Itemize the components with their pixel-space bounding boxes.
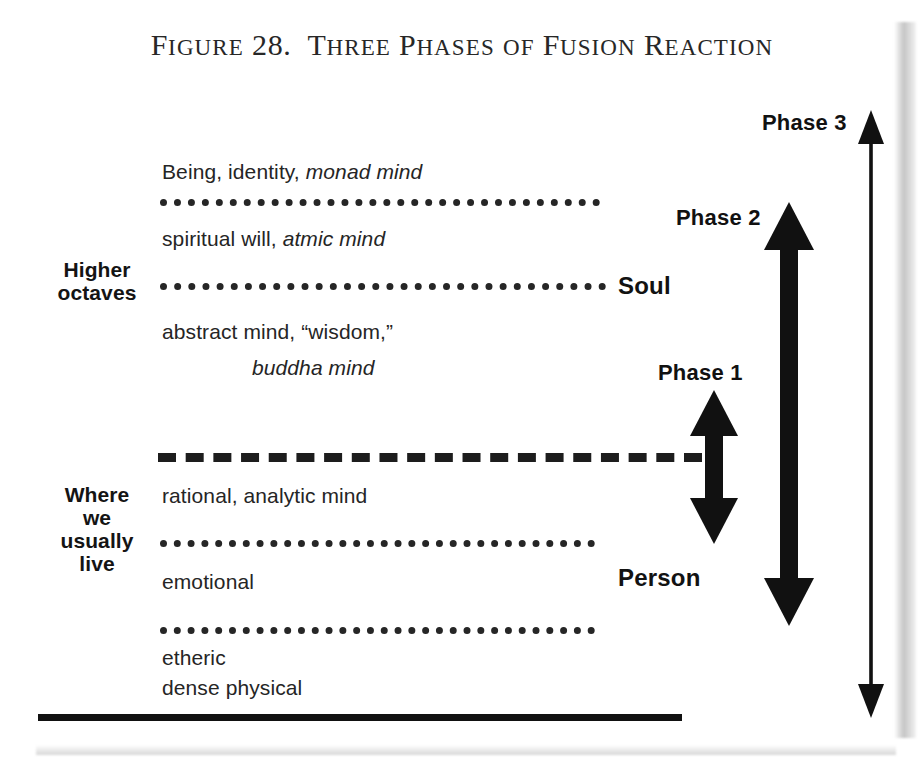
phase-label-2: Phase 2 bbox=[676, 205, 761, 231]
side-label-soul: Soul bbox=[618, 272, 671, 300]
group-label-higher-line1: Higher bbox=[38, 258, 156, 281]
group-label-lower-line1: Where bbox=[38, 483, 156, 506]
group-label-lower-line3: usually bbox=[38, 529, 156, 552]
group-label-lower-line4: live bbox=[38, 552, 156, 575]
group-label-lower-line2: we bbox=[38, 506, 156, 529]
band-text-etheric: etheric bbox=[162, 646, 226, 670]
band-text-rational: rational, analytic mind bbox=[162, 484, 367, 508]
figure-title: FIGURE 28. THREE PHASES OF FUSION REACTI… bbox=[0, 28, 924, 62]
band-text-atmic-italic: atmic mind bbox=[283, 227, 386, 250]
band-text-monad-italic: monad mind bbox=[306, 160, 423, 183]
divider-solid-base bbox=[38, 714, 682, 721]
phase-label-3: Phase 3 bbox=[762, 110, 847, 136]
divider-dotted-etheric bbox=[160, 627, 595, 634]
group-label-where-we-usually-live: Where we usually live bbox=[38, 483, 156, 575]
band-text-dense-physical: dense physical bbox=[162, 676, 302, 700]
group-label-higher-octaves: Higher octaves bbox=[38, 258, 156, 304]
band-text-atmic-plain: spiritual will, bbox=[162, 227, 277, 250]
side-label-person-text: Person bbox=[618, 564, 701, 591]
phase-2-arrow bbox=[760, 200, 818, 628]
phase-label-2-text: Phase 2 bbox=[676, 205, 761, 230]
band-text-etheric-label: etheric bbox=[162, 646, 226, 669]
figure-page: FIGURE 28. THREE PHASES OF FUSION REACTI… bbox=[0, 0, 924, 765]
side-label-person: Person bbox=[618, 564, 701, 592]
band-text-buddhi-line1: abstract mind, “wisdom,” bbox=[162, 320, 393, 344]
divider-dashed-threshold bbox=[158, 453, 702, 462]
phase-label-1: Phase 1 bbox=[658, 360, 743, 386]
band-text-atmic: spiritual will, atmic mind bbox=[162, 227, 385, 251]
band-text-buddhi-italic: buddha mind bbox=[252, 356, 375, 379]
band-text-monad: Being, identity, monad mind bbox=[162, 160, 422, 184]
side-label-soul-text: Soul bbox=[618, 272, 671, 299]
group-label-higher-line2: octaves bbox=[38, 281, 156, 304]
phase-3-arrow bbox=[850, 108, 892, 720]
divider-dotted-emotional bbox=[160, 540, 595, 547]
band-text-emotional: emotional bbox=[162, 570, 254, 594]
band-text-emotional-label: emotional bbox=[162, 570, 254, 593]
divider-dotted-monad bbox=[160, 199, 600, 206]
figure-title-prefix: FIGURE 28. bbox=[151, 28, 292, 61]
phase-1-arrow bbox=[686, 388, 742, 546]
band-text-rational-label: rational, analytic mind bbox=[162, 484, 367, 507]
page-edge-shadow-right bbox=[894, 22, 916, 738]
page-edge-shadow-bottom bbox=[36, 745, 896, 755]
divider-dotted-soul bbox=[160, 283, 606, 290]
band-text-buddhi-line2: buddha mind bbox=[252, 356, 375, 380]
phase-label-3-text: Phase 3 bbox=[762, 110, 847, 135]
phase-label-1-text: Phase 1 bbox=[658, 360, 743, 385]
band-text-buddhi-plain: abstract mind, “wisdom,” bbox=[162, 320, 393, 343]
figure-title-main: THREE PHASES OF FUSION REACTION bbox=[308, 28, 774, 61]
band-text-dense-physical-label: dense physical bbox=[162, 676, 302, 699]
band-text-monad-plain: Being, identity, bbox=[162, 160, 300, 183]
